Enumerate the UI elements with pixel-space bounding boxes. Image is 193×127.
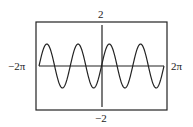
- y-min-label: −2: [95, 113, 107, 124]
- y-max-label: 2: [98, 9, 104, 20]
- x-min-label: −2π: [8, 61, 25, 72]
- chart-plot: [0, 0, 193, 127]
- x-max-label: 2π: [171, 61, 182, 72]
